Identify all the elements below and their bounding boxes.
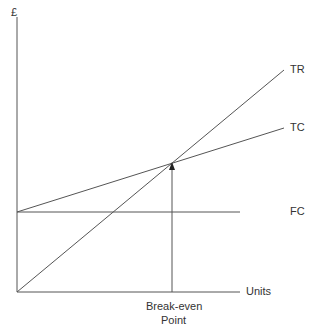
- tc-line: [17, 128, 284, 212]
- y-axis-label: £: [11, 6, 17, 18]
- break-even-label-line2: Point: [161, 314, 186, 326]
- x-axis-label: Units: [246, 285, 271, 297]
- fc-label: FC: [290, 205, 305, 217]
- break-even-label-line1: Break-even: [146, 300, 202, 312]
- tr-line: [17, 70, 284, 292]
- break-even-arrowhead-icon: [169, 162, 175, 170]
- tc-label: TC: [290, 121, 305, 133]
- tr-label: TR: [290, 63, 305, 75]
